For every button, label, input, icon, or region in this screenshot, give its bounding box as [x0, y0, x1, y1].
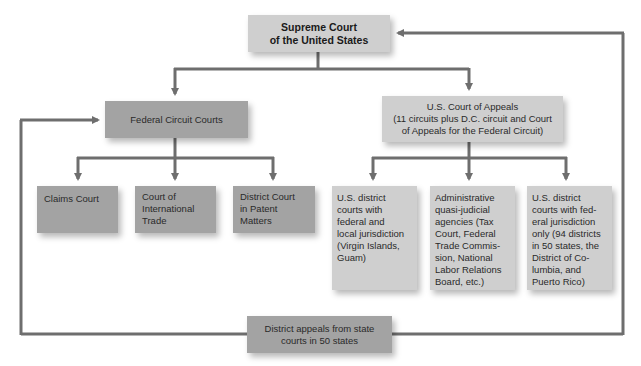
text-line: sion, National [435, 252, 510, 264]
text-line: quasi-judicial [435, 204, 510, 216]
court-of-international-trade-box: Court of International Trade [135, 186, 216, 233]
district-courts-federal-only-box: U.S. district courts with fed- eral juri… [527, 186, 612, 290]
text-line: Court, Federal [435, 228, 510, 240]
court-of-appeals-line1: U.S. Court of Appeals [427, 101, 518, 113]
federal-circuit-courts-label: Federal Circuit Courts [130, 114, 222, 126]
supreme-court-label-line1: Supreme Court [281, 21, 357, 34]
connector-lines [0, 0, 641, 366]
supreme-court-label-line2: of the United States [270, 34, 369, 47]
federal-circuit-courts-box: Federal Circuit Courts [105, 101, 248, 138]
text-line: in 50 states, the [532, 240, 607, 252]
text-line: U.S. district [337, 192, 412, 204]
text-line: agencies (Tax [435, 216, 510, 228]
claims-court-box: Claims Court [37, 186, 118, 233]
international-trade-line2: International [142, 203, 209, 215]
text-line: District of Co- [532, 252, 607, 264]
state-appeals-line2: courts in 50 states [281, 335, 358, 347]
supreme-court-box: Supreme Court of the United States [248, 15, 390, 52]
district-court-patent-box: District Court in Patent Matters [233, 186, 315, 233]
court-of-appeals-line2: (11 circuits plus D.C. circuit and Court [393, 113, 552, 125]
text-line: Board, etc.) [435, 276, 510, 288]
text-line: Guam) [337, 252, 412, 264]
text-line: federal and [337, 216, 412, 228]
text-line: local jurisdiction [337, 228, 412, 240]
state-appeals-line1: District appeals from state [265, 323, 375, 335]
text-line: lumbia, and [532, 264, 607, 276]
patent-court-line3: Matters [240, 215, 308, 227]
international-trade-line1: Court of [142, 191, 209, 203]
text-line: Labor Relations [435, 264, 510, 276]
text-line: Puerto Rico) [532, 276, 607, 288]
text-line: eral jurisdiction [532, 216, 607, 228]
international-trade-line3: Trade [142, 215, 209, 227]
text-line: courts with [337, 204, 412, 216]
text-line: courts with fed- [532, 204, 607, 216]
text-line: only (94 districts [532, 228, 607, 240]
court-of-appeals-line3: of Appeals for the Federal Circuit) [402, 125, 544, 137]
administrative-agencies-box: Administrative quasi-judicial agencies (… [430, 186, 515, 290]
text-line: U.S. district [532, 192, 607, 204]
text-line: Trade Commis- [435, 240, 510, 252]
text-line: Administrative [435, 192, 510, 204]
claims-court-line1: Claims Court [44, 193, 111, 205]
state-appeals-box: District appeals from state courts in 50… [247, 316, 392, 353]
district-courts-federal-local-box: U.S. district courts with federal and lo… [332, 186, 417, 290]
text-line: (Virgin Islands, [337, 240, 412, 252]
patent-court-line2: in Patent [240, 203, 308, 215]
patent-court-line1: District Court [240, 191, 308, 203]
court-of-appeals-box: U.S. Court of Appeals (11 circuits plus … [382, 96, 563, 142]
